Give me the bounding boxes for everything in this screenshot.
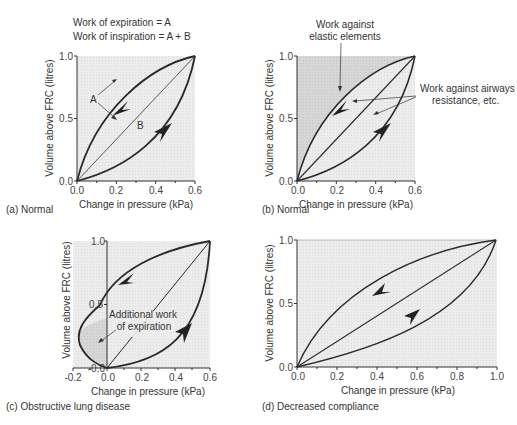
header-work-inspiration: Work of inspiration = A + B (73, 31, 191, 42)
panel-a-ytick: 0.0 (59, 176, 73, 187)
panel-d: 0.0 0.2 0.4 0.6 0.8 1.0 0.0 0.5 1.0 Volu… (262, 235, 504, 412)
panel-d-ytick: 0.0 (279, 362, 293, 373)
panel-b-xtick: 0.0 (291, 185, 305, 196)
panel-c-xtick: -0.2 (64, 372, 82, 383)
panel-b-xtick: 0.2 (330, 185, 344, 196)
panel-a-label-A: A (90, 94, 97, 105)
panel-b-ytick: 0.0 (279, 176, 293, 187)
panel-c-annotation: Additional work (109, 309, 178, 320)
panel-b-ytick: 1.0 (279, 51, 293, 62)
panel-a-xtick: 0.2 (109, 185, 123, 196)
panel-b-xtick: 0.6 (408, 185, 422, 196)
panel-b-airway-label: Work against airways (420, 83, 515, 94)
panel-d-ylabel: Volume above FRC (litres) (264, 244, 275, 361)
panel-c-xlabel: Change in pressure (kPa) (91, 386, 205, 397)
panel-b: 0.0 0.2 0.4 0.6 0.0 0.5 1.0 Volume above… (262, 19, 515, 215)
panel-c-xtick: 0.6 (203, 372, 217, 383)
panel-a-caption: (a) Normal (6, 204, 53, 215)
panel-c-caption: (c) Obstructive lung disease (6, 401, 130, 412)
panel-c-ylabel: Volume above FRC (litres) (61, 241, 72, 358)
panel-d-ytick: 1.0 (279, 235, 293, 246)
panel-d-xtick: 0.0 (291, 371, 305, 382)
panel-d-xlabel: Change in pressure (kPa) (341, 385, 455, 396)
panel-d-xtick: 0.2 (330, 371, 344, 382)
panel-b-elastic-label: Work against (316, 19, 374, 30)
header-work-expiration: Work of expiration = A (73, 17, 171, 28)
panel-a-label-B: B (137, 120, 144, 131)
panel-d-xtick: 0.6 (410, 371, 424, 382)
panel-c-xtick: 0.4 (169, 372, 183, 383)
panel-d-ytick: 0.5 (279, 298, 293, 309)
panel-d-xtick: 1.0 (490, 371, 504, 382)
panel-a-ytick: 0.5 (59, 113, 73, 124)
panel-d-caption: (d) Decreased compliance (262, 401, 379, 412)
panel-b-ytick: 0.5 (279, 113, 293, 124)
panel-a-ylabel: Volume above FRC (litres) (44, 59, 55, 176)
panel-a-xtick: 0.4 (149, 185, 163, 196)
panel-c-ytick: 1.0 (91, 236, 105, 247)
panel-d-xtick: 0.4 (370, 371, 384, 382)
panel-b-airway-label: resistance, etc. (432, 95, 499, 106)
panel-c-xtick: 0.2 (135, 372, 149, 383)
panel-c-annotation: of expiration (117, 321, 171, 332)
panel-c-ytick: -0.0 (88, 363, 106, 374)
panel-b-xlabel: Change in pressure (kPa) (299, 199, 413, 210)
pressure-volume-diagram: Work of expiration = A Work of inspirati… (0, 0, 517, 425)
panel-a-xlabel: Change in pressure (kPa) (79, 199, 193, 210)
panel-b-elastic-label: elastic elements (309, 31, 381, 42)
panel-b-ylabel: Volume above FRC (litres) (264, 59, 275, 176)
panel-a-ytick: 1.0 (59, 51, 73, 62)
panel-b-caption: (b) Normal (262, 204, 309, 215)
panel-a-xtick: 0.6 (188, 185, 202, 196)
panel-d-xtick: 0.8 (450, 371, 464, 382)
panel-a: 0.0 0.2 0.4 0.6 0.0 0.5 1.0 Volume above… (6, 51, 202, 215)
panel-c: -0.2 0.0 0.2 0.4 0.6 -0.0 0.5 1.0 Volume… (6, 236, 217, 412)
panel-b-xtick: 0.4 (369, 185, 383, 196)
